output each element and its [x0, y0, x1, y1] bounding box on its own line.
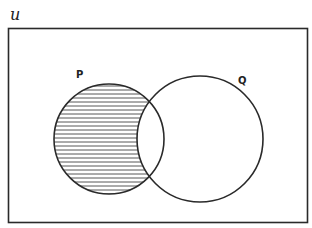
shaded-region-p-only — [0, 0, 312, 228]
venn-diagram: u P Q — [0, 0, 312, 228]
set-q-label: Q — [238, 75, 247, 86]
universal-set-label: u — [10, 5, 20, 24]
set-p-label: P — [76, 69, 83, 80]
